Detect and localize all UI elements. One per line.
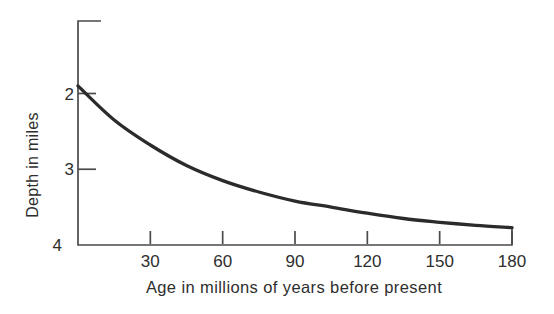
y-tick-label-3: 3 [65, 160, 74, 179]
y-tick-label-2: 2 [65, 85, 74, 104]
x-axis-label: Age in millions of years before present [146, 278, 442, 297]
x-tick-label-120: 120 [353, 252, 381, 271]
x-tick-label-30: 30 [141, 252, 160, 271]
axes-frame [78, 21, 512, 245]
scanned-figure-page: 234306090120150180 Depth in miles Age in… [0, 0, 554, 314]
x-tick-label-90: 90 [286, 252, 305, 271]
depth-vs-age-figure: 234306090120150180 Depth in miles Age in… [0, 0, 554, 314]
x-tick-label-150: 150 [425, 252, 453, 271]
y-tick-label-4: 4 [53, 236, 62, 255]
x-tick-label-180: 180 [498, 252, 526, 271]
depth-curve [78, 86, 512, 228]
y-axis-label: Depth in miles [24, 112, 42, 218]
x-tick-label-60: 60 [213, 252, 232, 271]
depth-age-chart: 234306090120150180 [0, 0, 554, 314]
